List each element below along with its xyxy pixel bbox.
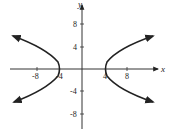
hyperbola-graph: x y -8 -4 4 8 8 4 -4 -8 bbox=[0, 0, 173, 131]
y-tick-label: 8 bbox=[73, 20, 77, 29]
x-tick-label: 8 bbox=[125, 72, 129, 81]
y-tick-label: 4 bbox=[73, 43, 77, 52]
y-axis-label: y bbox=[77, 0, 82, 9]
x-axis-label: x bbox=[160, 64, 165, 74]
y-tick-label: -4 bbox=[70, 87, 77, 96]
x-tick-label: -8 bbox=[32, 72, 39, 81]
y-tick-label: -8 bbox=[70, 110, 77, 119]
